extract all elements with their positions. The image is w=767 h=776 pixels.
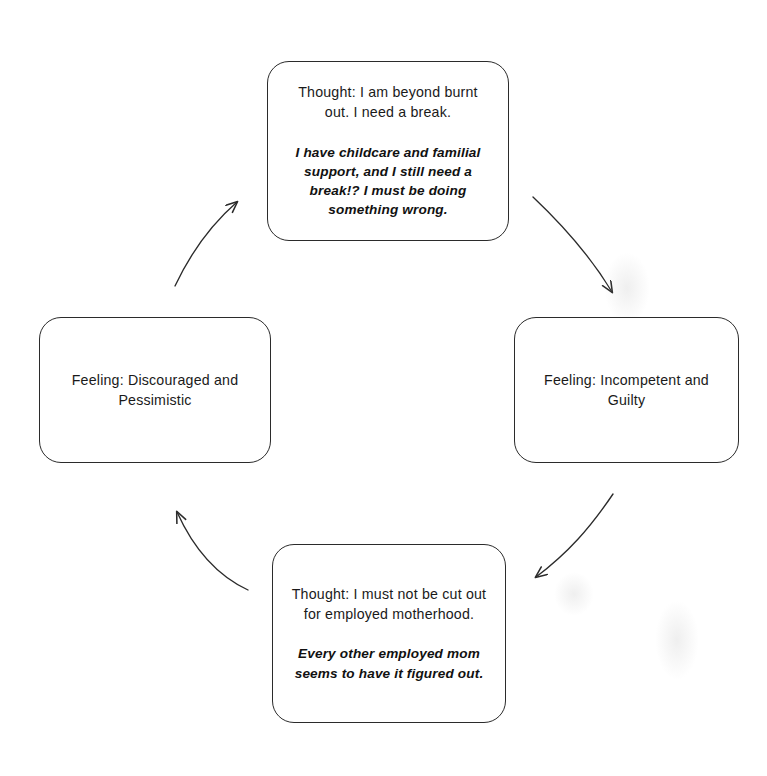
node-thought-top-primary: Thought: I am beyond burnt out. I need a… bbox=[284, 82, 492, 122]
node-thought-top-secondary: I have childcare and familial support, a… bbox=[284, 143, 492, 220]
scan-smudge bbox=[655, 600, 699, 680]
arrow-bottom-to-left-path bbox=[177, 512, 248, 590]
scan-smudge bbox=[604, 252, 650, 324]
arrow-left-to-top-path bbox=[175, 202, 237, 286]
thought-feeling-cycle-diagram: Thought: I am beyond burnt out. I need a… bbox=[0, 0, 767, 776]
node-feeling-left: Feeling: Discouraged and Pessimistic bbox=[39, 317, 271, 463]
arrow-top-to-right-path bbox=[533, 197, 612, 292]
scan-smudge bbox=[554, 572, 594, 616]
node-thought-bottom: Thought: I must not be cut out for emplo… bbox=[272, 544, 506, 723]
node-feeling-right-primary: Feeling: Incompetent and Guilty bbox=[531, 370, 722, 410]
node-thought-bottom-primary: Thought: I must not be cut out for emplo… bbox=[289, 584, 489, 624]
arrow-right-to-bottom-path bbox=[536, 494, 613, 577]
node-thought-top: Thought: I am beyond burnt out. I need a… bbox=[267, 61, 509, 241]
node-thought-bottom-secondary: Every other employed mom seems to have i… bbox=[289, 644, 489, 683]
node-feeling-right: Feeling: Incompetent and Guilty bbox=[514, 317, 739, 463]
node-feeling-left-primary: Feeling: Discouraged and Pessimistic bbox=[56, 370, 254, 410]
